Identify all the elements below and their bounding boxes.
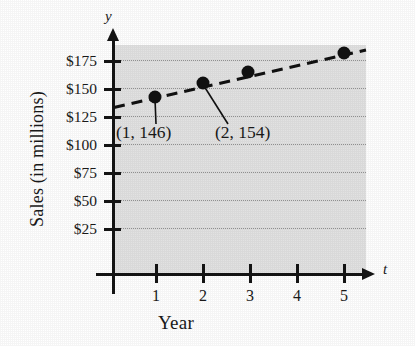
data-point-annotation-1: (1, 146) [116,124,171,142]
data-point-annotation-2: (2, 154) [215,124,270,142]
data-point-marker [197,77,210,90]
data-point-marker [242,66,255,79]
leader-line-point-2 [204,86,228,124]
y-axis-title: Sales (in millions) [28,59,46,259]
data-point-marker [338,47,351,60]
data-layer [0,0,415,346]
data-point-marker [149,91,162,104]
x-axis-title: Year [158,313,194,332]
sales-vs-year-scatter-chart: y t $175 $150 $125 $100 $75 $50 $25 1 2 … [0,0,415,346]
